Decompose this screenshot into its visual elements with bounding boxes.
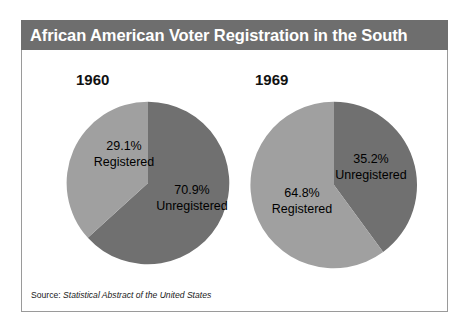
slice-name-1969-unregistered: Unregistered — [323, 168, 419, 184]
slice-name-1969-registered: Registered — [256, 202, 348, 218]
slice-value-1960-registered: 29.1% — [78, 139, 170, 155]
page-title: African American Voter Registration in t… — [30, 26, 408, 45]
slice-label-1960-unregistered: 70.9% Unregistered — [140, 183, 244, 214]
slice-name-1960-registered: Registered — [78, 155, 170, 171]
slice-label-1969-unregistered: 35.2% Unregistered — [323, 152, 419, 183]
slice-label-1960-registered: 29.1% Registered — [78, 139, 170, 170]
slice-value-1969-registered: 64.8% — [256, 186, 348, 202]
slice-value-1960-unregistered: 70.9% — [140, 183, 244, 199]
year-label-1969: 1969 — [255, 71, 288, 88]
chart-figure: African American Voter Registration in t… — [0, 0, 467, 335]
source-note: Source: Statistical Abstract of the Unit… — [31, 290, 211, 300]
year-label-1960: 1960 — [76, 71, 109, 88]
source-title: Statistical Abstract of the United State… — [63, 290, 211, 300]
chart-title-bar: African American Voter Registration in t… — [21, 20, 448, 50]
slice-label-1969-registered: 64.8% Registered — [256, 186, 348, 217]
source-prefix: Source: — [31, 290, 61, 300]
slice-value-1969-unregistered: 35.2% — [323, 152, 419, 168]
slice-name-1960-unregistered: Unregistered — [140, 199, 244, 215]
pie-chart-1969 — [249, 100, 419, 270]
